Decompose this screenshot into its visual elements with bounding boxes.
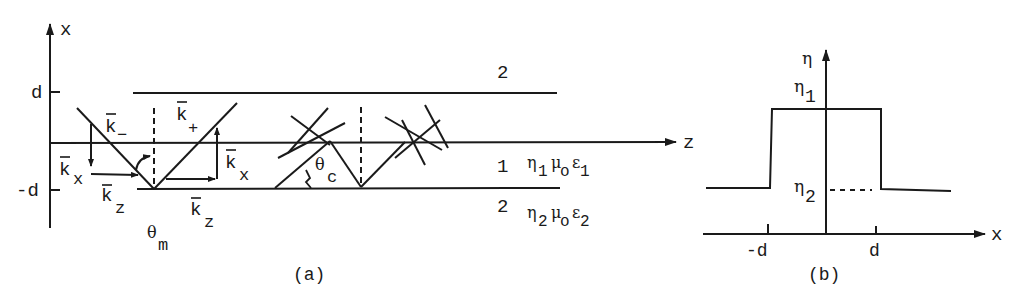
panel-b-labels: η x η 1 η 2 -d d (b) [746, 48, 1002, 285]
svg-text:o: o [560, 213, 570, 231]
svg-text:η: η [527, 153, 537, 172]
axis-x-label-b: x [991, 224, 1002, 246]
ray-3-up [361, 142, 405, 187]
label-k-plus: k + [176, 102, 198, 138]
axis-z-label: z [683, 132, 694, 154]
svg-text:+: + [188, 119, 198, 138]
wavefront-1b [278, 123, 345, 158]
axis-x-label: x [60, 19, 71, 41]
panel-b [703, 50, 985, 234]
axis-eta-label: η [802, 48, 812, 68]
svg-text:c: c [327, 168, 337, 187]
svg-text:η: η [527, 203, 537, 222]
wavefront-1a [288, 108, 328, 153]
svg-text:z: z [204, 213, 214, 232]
label-theta-m: θ m [147, 223, 168, 255]
svg-text:x: x [239, 166, 249, 185]
svg-text:k: k [225, 152, 236, 174]
svg-text:η: η [794, 76, 804, 96]
curved-arrow [136, 156, 150, 170]
svg-text:θ: θ [147, 223, 157, 242]
ray-k-plus [154, 103, 237, 189]
label-theta-c: θ c [315, 155, 337, 187]
clad-medium-label: η 2 μ o ε 2 [527, 203, 590, 231]
svg-text:k: k [190, 199, 201, 221]
panel-a [50, 24, 676, 228]
tick-minus-d-label: -d [16, 180, 39, 202]
vec-kz-left [91, 174, 138, 175]
index-profile [706, 109, 951, 191]
region-core-label: 1 [497, 156, 508, 178]
svg-text:2: 2 [805, 187, 816, 207]
region-top-label: 2 [497, 62, 508, 84]
svg-text:η: η [794, 176, 804, 196]
svg-text:1: 1 [805, 87, 816, 107]
svg-text:1: 1 [538, 163, 548, 181]
svg-text:1: 1 [580, 163, 590, 181]
tick-d-label-b: d [869, 241, 880, 261]
label-eta2: η 2 [794, 176, 816, 207]
tick-minus-d-label-b: -d [746, 241, 768, 261]
caption-a: (a) [293, 265, 325, 285]
svg-text:2: 2 [580, 213, 590, 231]
svg-text:m: m [158, 236, 168, 255]
caption-b: (b) [808, 265, 840, 285]
svg-text:2: 2 [538, 213, 548, 231]
svg-text:k: k [176, 104, 187, 126]
waveguide-figure: x z d -d 2 1 2 η 1 μ o ε 1 η 2 μ o ε 2 k… [0, 0, 1017, 304]
label-kx-left: k x [59, 157, 83, 189]
angle-arc-c [306, 170, 311, 188]
tick-d-label: d [31, 82, 42, 104]
svg-text:o: o [560, 163, 570, 181]
svg-text:k: k [101, 185, 112, 207]
svg-text:−: − [117, 126, 127, 145]
svg-text:θ: θ [315, 155, 325, 174]
label-kz-left: k z [101, 185, 125, 218]
svg-text:k: k [59, 159, 70, 181]
bottom-boundary [137, 188, 560, 189]
svg-text:z: z [115, 199, 125, 218]
svg-text:x: x [73, 170, 83, 189]
region-bottom-label: 2 [497, 196, 508, 218]
core-medium-label: η 1 μ o ε 1 [527, 153, 590, 181]
z-axis [50, 142, 676, 143]
label-kx-right: k x [225, 150, 249, 185]
label-kz-right: k z [190, 198, 214, 232]
label-eta1: η 1 [794, 76, 816, 107]
svg-text:k: k [105, 116, 116, 138]
